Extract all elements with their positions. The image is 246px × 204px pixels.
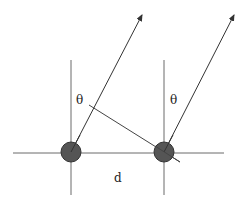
array-geometry-diagram: θ θ d (0, 0, 246, 204)
spacing-label: d (114, 171, 122, 185)
theta-left-label: θ (76, 93, 83, 107)
right-direction-arrow (164, 15, 234, 152)
diagram-canvas: θ θ d (0, 0, 246, 204)
theta-right-label: θ (170, 93, 177, 107)
